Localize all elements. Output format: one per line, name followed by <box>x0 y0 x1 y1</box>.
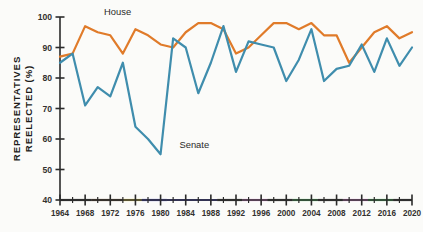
x-tick-label: 1968 <box>76 209 95 218</box>
y-tick-label: 90 <box>42 43 52 53</box>
y-axis-title: REPRESENTATIVESREELECTED (%) <box>11 56 34 161</box>
x-tick-label: 2020 <box>403 209 422 218</box>
series-line-house <box>60 23 412 63</box>
series-lines <box>60 23 412 154</box>
y-tick-label: 50 <box>42 165 52 175</box>
x-tick-label: 2000 <box>277 209 296 218</box>
y-axis-title-line-1: REPRESENTATIVES <box>11 56 22 161</box>
x-tick-label: 1964 <box>51 209 70 218</box>
x-tick-label: 1988 <box>202 209 221 218</box>
y-tick-label: 60 <box>42 134 52 144</box>
x-tick-label: 1992 <box>227 209 246 218</box>
x-tick-label: 1984 <box>177 209 196 218</box>
y-tick-label: 100 <box>38 12 53 22</box>
chart-container: 405060708090100 196419681972197619801984… <box>0 0 423 232</box>
series-line-senate <box>60 26 412 154</box>
x-tick-label: 2012 <box>353 209 372 218</box>
x-axis: 1964196819721976198019841988199219962000… <box>51 195 422 219</box>
x-tick-label: 2008 <box>327 209 346 218</box>
x-tick-label: 2004 <box>302 209 321 218</box>
reelection-line-chart: 405060708090100 196419681972197619801984… <box>0 0 423 232</box>
x-tick-label: 2016 <box>378 209 397 218</box>
series-label-house: House <box>104 6 131 17</box>
x-tick-label: 1996 <box>252 209 271 218</box>
y-tick-label: 70 <box>42 104 52 114</box>
y-axis-title-line-2: REELECTED (%) <box>23 65 34 152</box>
x-tick-label: 1972 <box>101 209 120 218</box>
y-tick-label: 40 <box>42 195 52 205</box>
x-tick-label: 1980 <box>151 209 170 218</box>
y-axis: 405060708090100 <box>38 12 65 205</box>
y-tick-label: 80 <box>42 73 52 83</box>
series-label-senate: Senate <box>179 139 209 150</box>
x-tick-label: 1976 <box>126 209 145 218</box>
